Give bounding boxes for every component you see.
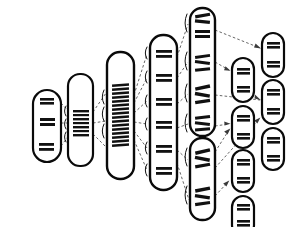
link-c4-c5a-2 <box>177 62 188 78</box>
chromosome-c5a[interactable] <box>185 8 215 136</box>
link-c2-c3-top <box>93 93 106 112</box>
chromosome-c6a-outline <box>232 58 254 102</box>
arrow-c5a-c7a <box>254 43 261 48</box>
chromosome-c4[interactable] <box>145 35 177 190</box>
arrow-c5b-c6c <box>224 128 230 134</box>
chromosome-c2[interactable] <box>65 74 94 166</box>
arrow-c5b-c7c <box>254 118 260 124</box>
chromosome-c6d[interactable] <box>232 196 254 227</box>
chromosome-c7a[interactable] <box>262 33 284 77</box>
chromosome-c7a-outline <box>262 33 284 77</box>
chromosome-c7b[interactable] <box>262 80 284 124</box>
chromosome-c1[interactable] <box>33 90 61 162</box>
link-c4-c5b-1 <box>177 150 188 160</box>
chromosome-c6b-outline <box>232 106 254 148</box>
arrow-c5a-c6b <box>224 121 230 125</box>
chromosome-c7b-outline <box>262 80 284 124</box>
chromosome-c4-braces <box>145 47 147 176</box>
diagram-canvas: Hierarchical chromosome ideogram branchi… <box>0 0 290 227</box>
arrow-c5b-c6d <box>223 181 229 187</box>
chromosome-c5b[interactable] <box>185 138 215 220</box>
chromosome-c6a[interactable] <box>232 58 254 102</box>
link-c4-c5a-4 <box>177 124 188 128</box>
chromosome-c3[interactable] <box>102 52 134 179</box>
chromosome-c5a-braces <box>185 14 187 132</box>
chromosome-c6b[interactable] <box>232 106 254 148</box>
chromosome-diagram-svg <box>0 0 290 227</box>
chromosome-c5b-braces <box>185 148 187 204</box>
link-c2-c3-bot <box>93 134 106 147</box>
chromosome-c7c[interactable] <box>262 128 284 170</box>
link-c3-c4-6 <box>134 140 147 170</box>
chromosome-c6c[interactable] <box>232 150 254 192</box>
chromosome-c4-outline <box>150 35 177 190</box>
chromosome-c6c-outline <box>232 150 254 192</box>
chromosome-c7c-outline <box>262 128 284 170</box>
chromosome-c2-braces <box>65 106 67 142</box>
chromosome-c3-braces <box>102 90 104 138</box>
chromosome-c3-outline <box>107 52 134 179</box>
link-c5a-c7a <box>215 30 260 48</box>
link-c4-c5b-2 <box>177 163 189 200</box>
arrow-c5a-c6a <box>224 66 231 71</box>
